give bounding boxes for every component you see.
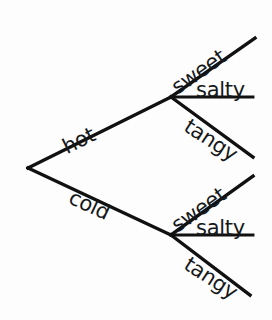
label-cold-salty: salty	[196, 218, 245, 239]
branch-root-to-hot	[28, 97, 171, 168]
tree-diagram: hot cold sweet salty tangy sweet salty t…	[0, 0, 272, 320]
label-hot-salty: salty	[196, 80, 245, 101]
